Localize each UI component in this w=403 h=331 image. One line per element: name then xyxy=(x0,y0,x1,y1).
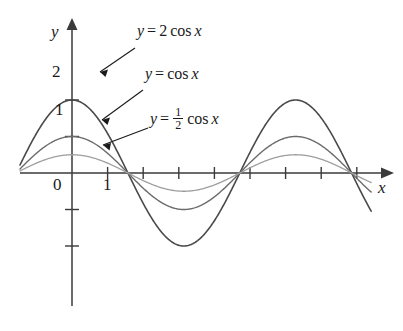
eq1-coefficient: 2 xyxy=(159,22,167,40)
annotation-leader-lines xyxy=(100,48,148,151)
eq3-numerator: 1 xyxy=(173,106,183,118)
y-tick-label-2: 2 xyxy=(52,62,61,82)
eq2-lhs: y xyxy=(145,65,152,83)
x-tick-label-1: 1 xyxy=(103,175,112,195)
eq1-variable: x xyxy=(194,22,201,40)
eq1-function: cos xyxy=(170,22,191,40)
eq3-lhs: y xyxy=(150,110,157,128)
y-tick-label-1: 1 xyxy=(55,100,64,120)
eq3-fraction-one-half: 1 2 xyxy=(173,106,183,131)
leader-line-cos xyxy=(102,90,143,120)
eq1-equals: = xyxy=(147,22,156,40)
y-axis-label: y xyxy=(51,22,59,42)
origin-label: 0 xyxy=(53,175,62,195)
eq2-variable: x xyxy=(191,65,198,83)
eq1-lhs: y xyxy=(137,22,144,40)
label-cos-x: y = cos x xyxy=(145,65,199,83)
eq3-denominator: 2 xyxy=(173,118,183,131)
label-half-cos-x: y = 1 2 cos x xyxy=(150,106,219,131)
label-2cos-x: y = 2 cos x xyxy=(137,22,202,40)
cosine-curves-plot xyxy=(0,0,403,331)
eq3-function: cos xyxy=(187,110,208,128)
leader-line-2cos xyxy=(100,48,135,72)
eq2-equals: = xyxy=(155,65,164,83)
y-axis-arrowhead xyxy=(67,18,78,30)
eq3-variable: x xyxy=(211,110,218,128)
axes-group xyxy=(20,18,394,306)
x-axis-arrowhead xyxy=(381,168,394,179)
x-axis-label: x xyxy=(378,178,386,198)
eq2-function: cos xyxy=(167,65,188,83)
eq3-equals: = xyxy=(160,110,169,128)
chart-figure: y x 0 1 1 2 y = 2 cos x y = cos x y = 1 … xyxy=(0,0,403,331)
